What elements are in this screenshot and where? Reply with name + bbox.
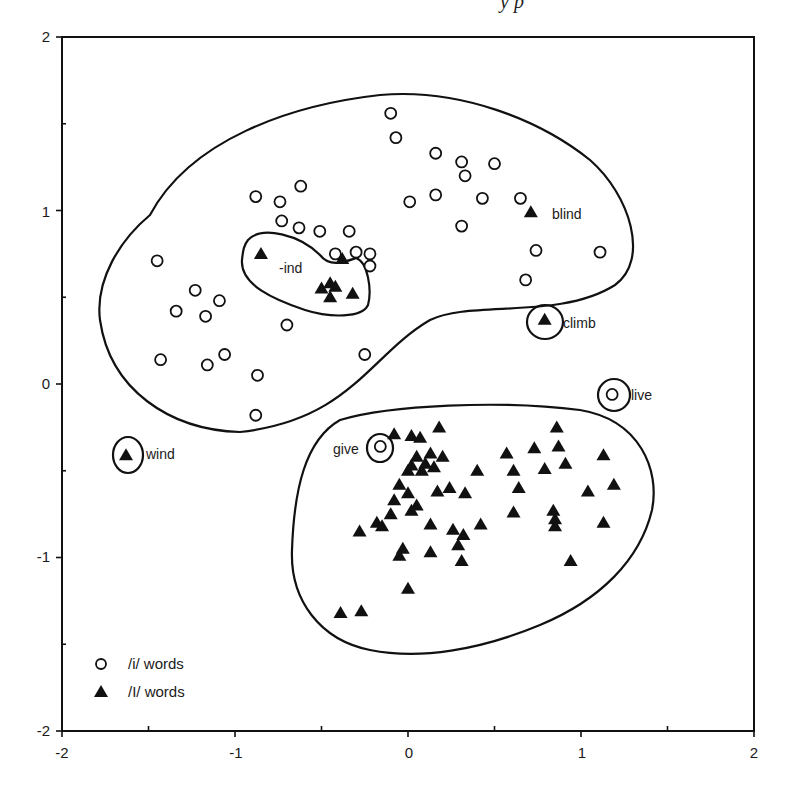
open-circle-marker <box>456 221 467 232</box>
x-tick-0: 0 <box>405 744 413 761</box>
open-circle-marker <box>477 193 488 204</box>
open-circle-marker <box>200 311 211 322</box>
open-circle-marker <box>364 261 375 272</box>
legend-filled-triangle-icon <box>94 685 108 697</box>
open-circle-marker <box>456 156 467 167</box>
open-circle-marker <box>294 222 305 233</box>
filled-triangle-marker <box>346 287 360 299</box>
scatter-chart: 2 1 0 -1 -2 -2 -1 0 1 2 -ind blind climb… <box>0 0 794 791</box>
filled-triangle-marker <box>455 554 469 566</box>
filled-triangle-marker <box>474 518 488 530</box>
filled-triangle-marker <box>423 518 437 530</box>
filled-triangle-marker <box>538 462 552 474</box>
open-circle-marker <box>219 349 230 360</box>
open-circle-marker <box>214 295 225 306</box>
open-circle-marker <box>155 354 166 365</box>
filled-triangle-marker <box>430 485 444 497</box>
filled-triangle-marker <box>436 450 450 462</box>
legend-label-i-words: /i/ words <box>128 655 184 672</box>
filled-triangle-marker <box>500 446 514 458</box>
filled-triangle-marker <box>524 205 538 217</box>
open-circle-marker <box>314 226 325 237</box>
open-circle-marker <box>171 306 182 317</box>
give-label: give <box>333 441 359 457</box>
open-circle-marker <box>390 132 401 143</box>
open-circle-marker <box>364 248 375 259</box>
open-circle-marker <box>385 108 396 119</box>
open-circle-marker <box>252 370 263 381</box>
y-tick-2: 2 <box>42 28 50 45</box>
filled-triangle-marker <box>596 516 610 528</box>
filled-triangle-marker <box>432 420 446 432</box>
filled-triangle-marker <box>387 427 401 439</box>
filled-triangle-marker <box>546 504 560 516</box>
filled-triangle-marker <box>527 441 541 453</box>
open-circle-marker <box>202 359 213 370</box>
filled-triangle-marker <box>550 420 564 432</box>
filled-triangle-marker <box>423 446 437 458</box>
filled-triangle-marker <box>119 448 133 460</box>
filled-triangle-marker <box>354 604 368 616</box>
open-circle-marker <box>344 226 355 237</box>
filled-triangle-marker <box>401 582 415 594</box>
legend-label-I-words: /I/ words <box>128 683 185 700</box>
filled-triangle-marker <box>581 485 595 497</box>
filled-triangle-marker <box>512 481 526 493</box>
plot-frame <box>62 37 754 731</box>
open-circle-marker <box>152 255 163 266</box>
open-circle-marker <box>607 389 618 400</box>
filled-triangle-marker <box>254 247 268 259</box>
wind-label: wind <box>145 446 175 462</box>
open-circle-marker <box>250 191 261 202</box>
open-circle-marker <box>281 320 292 331</box>
open-circle-marker <box>430 189 441 200</box>
climb-label: climb <box>563 315 596 331</box>
y-tick-neg1: -1 <box>37 548 50 565</box>
filled-triangle-marker <box>507 464 521 476</box>
open-circle-marker <box>250 410 261 421</box>
filled-triangle-marker <box>470 464 484 476</box>
x-tick-2: 2 <box>750 744 758 761</box>
open-circle-marker <box>375 441 386 452</box>
open-circle-marker <box>351 247 362 258</box>
open-circle-marker <box>520 274 531 285</box>
x-tick-neg2: -2 <box>55 744 68 761</box>
blind-label: blind <box>552 206 582 222</box>
filled-triangle-marker <box>423 545 437 557</box>
y-tick-0: 0 <box>42 375 50 392</box>
open-circle-marker <box>531 245 542 256</box>
filled-triangle-marker <box>552 439 566 451</box>
filled-triangle-marker <box>538 313 552 325</box>
filled-triangle-marker <box>458 486 472 498</box>
open-circle-marker <box>404 196 415 207</box>
open-circle-marker <box>359 349 370 360</box>
open-circle-marker <box>595 247 606 258</box>
open-circle-marker <box>276 215 287 226</box>
filled-triangle-marker <box>607 478 621 490</box>
y-tick-1: 1 <box>42 203 50 220</box>
legend: /i/ words /I/ words <box>94 655 185 700</box>
open-circle-marker <box>489 158 500 169</box>
filled-triangle-marker <box>443 481 457 493</box>
x-axis-tick-labels: -2 -1 0 1 2 <box>55 744 758 761</box>
filled-triangle-marker <box>387 493 401 505</box>
filled-triangle-marker <box>596 448 610 460</box>
filled-triangle-marker <box>507 505 521 517</box>
filled-triangle-marker <box>451 538 465 550</box>
open-circle-marker <box>295 181 306 192</box>
filled-triangle-marker <box>392 478 406 490</box>
ind-cluster-contour <box>242 233 370 316</box>
y-tick-neg2: -2 <box>37 722 50 739</box>
open-circle-marker <box>460 170 471 181</box>
series-i-words <box>152 108 618 452</box>
filled-triangle-marker <box>446 523 460 535</box>
filled-triangle-marker <box>558 457 572 469</box>
ind-cluster-label: -ind <box>279 260 302 276</box>
open-circle-marker <box>274 196 285 207</box>
open-circle-marker <box>430 148 441 159</box>
filled-triangle-marker <box>564 554 578 566</box>
filled-triangle-marker <box>353 524 367 536</box>
filled-triangle-marker <box>384 507 398 519</box>
open-circle-marker <box>515 193 526 204</box>
filled-triangle-marker <box>334 606 348 618</box>
